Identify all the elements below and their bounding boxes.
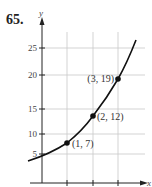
y-axis-label: y bbox=[38, 8, 43, 18]
point-label: (2, 12) bbox=[97, 111, 124, 123]
data-point bbox=[90, 113, 96, 119]
x-axis-label: x bbox=[146, 178, 151, 187]
data-point bbox=[115, 76, 121, 82]
data-point bbox=[64, 140, 70, 146]
y-tick-label: 15 bbox=[28, 104, 38, 114]
axes bbox=[30, 22, 144, 186]
point-label: (1, 7) bbox=[72, 138, 94, 150]
y-tick-label: 25 bbox=[28, 43, 38, 53]
point-label: (3, 19) bbox=[87, 73, 114, 85]
chart: y x 5 10 15 20 25 (1, 7) (2, 12) (3, 19) bbox=[0, 0, 152, 187]
y-tick-label: 20 bbox=[28, 70, 38, 80]
y-axis-arrow-icon bbox=[40, 17, 45, 25]
y-tick-label: 10 bbox=[28, 129, 38, 139]
